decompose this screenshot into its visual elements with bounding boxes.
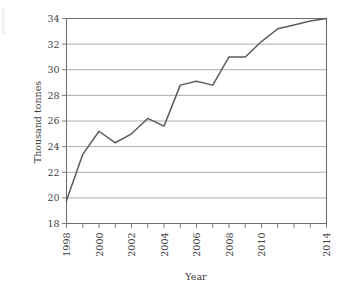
y-tick-label-34: 34: [47, 13, 59, 24]
x-axis-title: Year: [184, 271, 207, 282]
line-chart: 182022242628303234 199820002002200420062…: [0, 0, 339, 294]
y-tick-label-22: 22: [47, 167, 59, 178]
y-tick-label-20: 20: [47, 192, 59, 203]
y-axis-title: Thousand tonnes: [32, 81, 43, 163]
x-tick-label-2010: 2010: [256, 233, 267, 257]
x-tick-label-2006: 2006: [191, 233, 202, 257]
x-tick-label-2014: 2014: [321, 233, 332, 257]
x-tick-label-2002: 2002: [126, 233, 137, 257]
x-tick-label-group: 19982000200220042006200820102014: [61, 233, 332, 257]
y-tick-label-28: 28: [47, 90, 59, 101]
x-tick-label-2004: 2004: [159, 233, 170, 257]
y-tick-label-group: 182022242628303234: [47, 13, 59, 229]
chart-canvas: 182022242628303234 199820002002200420062…: [0, 0, 339, 294]
series-line-production: [67, 19, 327, 201]
x-tick-label-2000: 2000: [94, 233, 105, 257]
scan-artifact: [2, 8, 5, 34]
y-tick-group: [62, 19, 67, 224]
y-tick-label-26: 26: [47, 115, 59, 126]
gridlines-group: [67, 19, 327, 198]
y-tick-label-18: 18: [47, 218, 59, 229]
y-tick-label-32: 32: [47, 39, 59, 50]
y-tick-label-24: 24: [47, 141, 59, 152]
y-tick-label-30: 30: [47, 64, 59, 75]
x-tick-label-2008: 2008: [224, 233, 235, 257]
x-tick-label-1998: 1998: [61, 233, 72, 257]
x-tick-group: [67, 224, 327, 229]
